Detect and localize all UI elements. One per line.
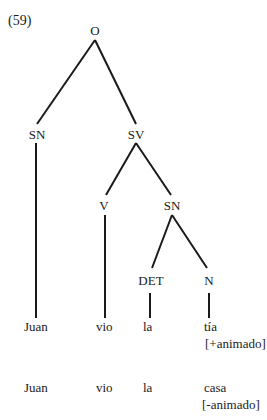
edge-sv-v (106, 143, 136, 195)
sentence2-word-juan: Juan (24, 381, 48, 395)
sentence1-word-juan: Juan (24, 320, 48, 334)
node-sn-subject: SN (29, 128, 46, 142)
edge-sn-det (152, 215, 172, 268)
node-sn-object: SN (164, 199, 181, 213)
sentence1-word-la: la (143, 320, 152, 334)
sentence2-word-la: la (143, 381, 152, 395)
sentence1-word-vio: vio (96, 320, 113, 334)
node-det: DET (138, 274, 163, 288)
sentence2-feature: [-animado] (202, 398, 260, 412)
sentence2-word-casa: casa (204, 381, 226, 395)
sentence1-word-tia: tía (204, 320, 217, 334)
node-v: V (99, 199, 108, 213)
node-o: O (90, 24, 99, 38)
edge-o-sv (95, 40, 136, 124)
node-sv: SV (128, 128, 145, 142)
node-n: N (204, 274, 213, 288)
sentence1-feature: [+animado] (205, 337, 266, 351)
edge-sn-n (172, 215, 207, 268)
sentence2-word-vio: vio (96, 381, 113, 395)
edge-o-sn (37, 40, 95, 124)
edge-sv-sn (136, 143, 171, 195)
syntax-tree-edges (0, 0, 267, 420)
